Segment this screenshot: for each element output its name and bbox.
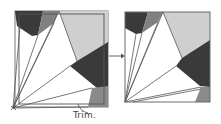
before-trim-block [11, 11, 108, 113]
after-trim-block [125, 12, 210, 102]
diagram-canvas [0, 0, 221, 124]
arrow-right-icon [109, 54, 125, 59]
trim-label: Trim. [73, 110, 96, 120]
